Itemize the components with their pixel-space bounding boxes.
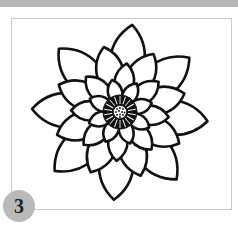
- flower-illustration: [0, 0, 238, 227]
- flower-center: [103, 95, 137, 129]
- step-number: 3: [14, 196, 24, 216]
- step-number-badge: 3: [3, 190, 35, 222]
- flower-petals: [31, 22, 209, 201]
